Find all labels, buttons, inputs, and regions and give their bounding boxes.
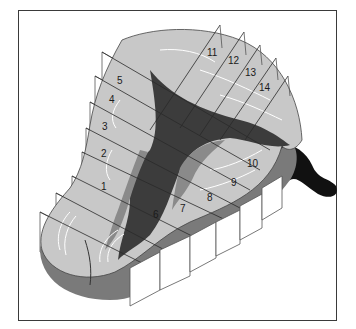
label-3: 3 xyxy=(102,121,108,132)
label-10: 10 xyxy=(247,158,259,169)
label-14: 14 xyxy=(259,82,271,93)
label-8: 8 xyxy=(207,192,213,203)
label-4: 4 xyxy=(109,94,115,105)
label-5: 5 xyxy=(117,75,123,86)
label-13: 13 xyxy=(245,67,257,78)
label-7: 7 xyxy=(180,203,186,214)
label-11: 11 xyxy=(207,47,218,58)
label-12: 12 xyxy=(228,55,240,66)
label-9: 9 xyxy=(231,177,237,188)
tongue-diagram: 1 2 3 4 5 6 7 8 9 10 11 12 13 14 xyxy=(0,0,356,329)
label-2: 2 xyxy=(101,148,107,159)
label-1: 1 xyxy=(101,181,107,192)
label-6: 6 xyxy=(153,209,159,220)
